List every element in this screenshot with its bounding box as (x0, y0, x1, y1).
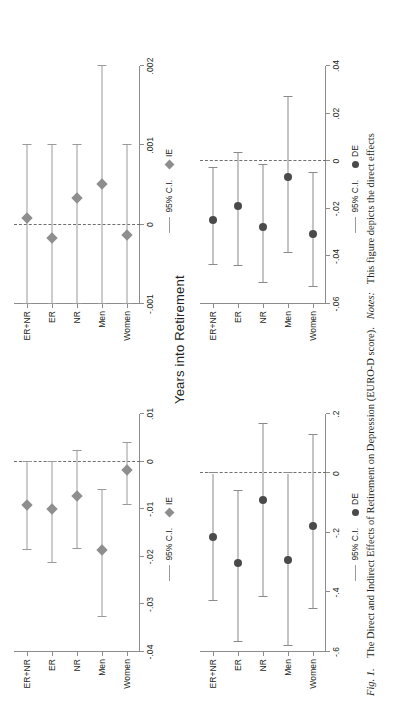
confidence-interval-cap (73, 144, 82, 145)
data-point-marker[interactable] (259, 223, 267, 231)
x-axis-tick (326, 255, 330, 256)
data-point-marker[interactable] (21, 499, 32, 510)
data-point-marker[interactable] (46, 232, 57, 243)
axis-title: Years into Retirement (172, 275, 187, 404)
category-label-er-nr: ER+NR (22, 659, 32, 689)
category-label-er: ER (47, 659, 57, 671)
confidence-interval-cap (47, 303, 56, 304)
confidence-interval-cap (309, 434, 318, 435)
confidence-interval-cap (208, 167, 217, 168)
confidence-interval-cap (73, 450, 82, 451)
y-axis-tick (102, 304, 103, 308)
x-axis-tick-label: 0 (331, 471, 341, 476)
category-label-er: ER (233, 311, 243, 323)
x-axis-tick-label: -.2 (331, 528, 341, 538)
category-label-er-nr: ER+NR (22, 311, 32, 341)
circle-marker-icon (352, 161, 359, 168)
confidence-interval-cap (22, 303, 31, 304)
category-label-er-nr: ER+NR (208, 311, 218, 341)
data-point-marker[interactable] (46, 503, 57, 514)
x-axis-tick (140, 303, 144, 304)
x-axis-tick-label: .2 (331, 410, 341, 417)
confidence-interval-cap (284, 645, 293, 646)
data-point-marker[interactable] (209, 533, 217, 541)
data-point-marker[interactable] (234, 559, 242, 567)
confidence-interval-bar (26, 145, 27, 304)
confidence-interval-cap (259, 282, 268, 283)
confidence-interval-cap (259, 596, 268, 597)
x-axis-tick-label: .04 (331, 60, 341, 72)
data-point-marker[interactable] (71, 490, 82, 501)
legend-label-ci: 95% C.I. (350, 180, 360, 213)
data-point-marker[interactable] (21, 213, 32, 224)
category-label-women: Women (122, 659, 132, 689)
category-label-women: Women (308, 659, 318, 689)
x-axis-tick (140, 461, 144, 462)
confidence-interval-cap (73, 303, 82, 304)
legend: 95% C.I.IE (164, 497, 174, 581)
data-point-marker[interactable] (122, 229, 133, 240)
confidence-interval-cap (98, 303, 107, 304)
confidence-interval-bar (263, 424, 264, 597)
zero-reference-line (200, 160, 326, 161)
y-axis-tick (313, 652, 314, 656)
legend-item-series: IE (164, 149, 174, 168)
y-axis-tick (263, 304, 264, 308)
ci-line-icon (169, 565, 170, 581)
data-point-marker[interactable] (97, 544, 108, 555)
x-axis-tick-label: -.01 (145, 502, 155, 517)
legend-label-series: DE (350, 493, 360, 505)
legend-label-series: IE (164, 149, 174, 157)
confidence-interval-cap (123, 303, 132, 304)
data-point-marker[interactable] (122, 464, 133, 475)
confidence-interval-cap (22, 549, 31, 550)
x-axis-tick (326, 592, 330, 593)
y-axis-tick (102, 652, 103, 656)
category-label-men: Men (283, 311, 293, 328)
x-axis-tick (326, 303, 330, 304)
legend-label-series: DE (350, 145, 360, 157)
figure-caption: Fig. 1. The Direct and Indirect Effects … (364, 6, 378, 696)
category-label-nr: NR (72, 659, 82, 671)
legend: 95% C.I.IE (164, 149, 174, 233)
category-label-nr: NR (258, 659, 268, 671)
confidence-interval-cap (123, 144, 132, 145)
confidence-interval-cap (22, 461, 31, 462)
x-axis-line (325, 414, 326, 652)
category-label-nr: NR (258, 311, 268, 323)
plot-area (200, 414, 326, 652)
ci-line-icon (355, 565, 356, 581)
panel-ie-right: -.0010.001.002ER+NRERNRMenWomen95% C.I.I… (14, 66, 140, 304)
category-label-men: Men (97, 659, 107, 676)
data-point-marker[interactable] (71, 193, 82, 204)
data-point-marker[interactable] (284, 556, 292, 564)
x-axis-tick-label: .001 (145, 137, 155, 154)
confidence-interval-cap (47, 461, 56, 462)
confidence-interval-cap (123, 442, 132, 443)
legend: 95% C.I.DE (350, 145, 360, 232)
x-axis-tick-label: -.02 (331, 201, 341, 216)
y-axis-tick (263, 652, 264, 656)
data-point-marker[interactable] (309, 522, 317, 530)
data-point-marker[interactable] (259, 496, 267, 504)
x-axis-tick (140, 224, 144, 225)
x-axis-tick-label: 0 (331, 159, 341, 164)
x-axis-tick-label: -.6 (331, 647, 341, 657)
data-point-marker[interactable] (284, 173, 292, 181)
x-axis-tick-label: -.4 (331, 587, 341, 597)
figure-page: -.04-.03-.02-.010.01ER+NRERNRMenWomen95%… (0, 0, 402, 704)
y-axis-tick (238, 652, 239, 656)
data-point-marker[interactable] (209, 216, 217, 224)
data-point-marker[interactable] (97, 179, 108, 190)
data-point-marker[interactable] (234, 202, 242, 210)
legend: 95% C.I.DE (350, 493, 360, 580)
confidence-interval-bar (51, 145, 52, 304)
x-axis-tick-label: -.04 (145, 644, 155, 659)
confidence-interval-cap (208, 264, 217, 265)
confidence-interval-cap (284, 252, 293, 253)
x-axis-tick-label: 0 (145, 459, 155, 464)
legend-item-series: DE (350, 145, 360, 168)
y-axis-tick (213, 304, 214, 308)
confidence-interval-cap (47, 562, 56, 563)
data-point-marker[interactable] (309, 230, 317, 238)
